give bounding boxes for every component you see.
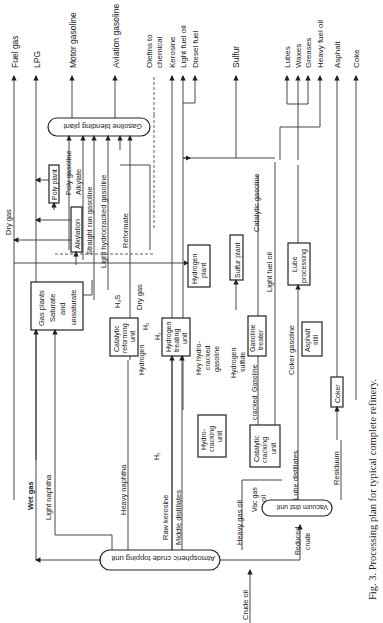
svg-text:cracked: cracked <box>251 395 258 420</box>
svg-text:Saturate: Saturate <box>48 294 57 322</box>
svg-text:Dry gas: Dry gas <box>4 209 13 235</box>
svg-text:Raw kerosine: Raw kerosine <box>161 495 170 540</box>
svg-text:Lube distillates: Lube distillates <box>291 450 300 500</box>
svg-text:reforming: reforming <box>121 323 129 353</box>
svg-text:Reformate: Reformate <box>121 213 130 248</box>
svg-text:cracked: cracked <box>204 345 211 370</box>
product-waxes: Waxes <box>294 44 303 68</box>
asphalt-still-unit: Asphalt still <box>302 322 322 356</box>
hydrocracking-unit: Hydro- cracking unit <box>198 415 226 457</box>
product-motor-gasoline: Motor gasoline <box>68 12 78 68</box>
svg-text:Coker: Coker <box>334 384 341 403</box>
svg-text:and: and <box>58 302 67 315</box>
lube-processing-unit: Lube processing <box>288 165 310 300</box>
svg-text:Hydrogen: Hydrogen <box>191 254 199 284</box>
product-labels: Fuel gas LPG Motor gasoline Aviation gas… <box>10 4 361 68</box>
svg-text:Crude oil: Crude oil <box>241 590 250 620</box>
svg-text:H₂S: H₂S <box>113 295 122 308</box>
sulfur-plant: Sulfur plant <box>230 235 243 310</box>
svg-text:Hydrogen: Hydrogen <box>165 322 173 352</box>
product-coke: Coke <box>352 49 361 68</box>
product-olefins-2: chemical <box>155 36 164 68</box>
svg-text:Sulfur plant: Sulfur plant <box>234 243 242 278</box>
svg-text:Asphalt: Asphalt <box>304 329 312 352</box>
svg-text:Gasoline blending plant: Gasoline blending plant <box>63 122 142 131</box>
svg-text:Catalytic: Catalytic <box>253 435 261 462</box>
product-lpg: LPG <box>32 51 42 68</box>
svg-text:Gasoline: Gasoline <box>249 324 256 352</box>
svg-text:Catalytic: Catalytic <box>113 325 121 352</box>
svg-text:Gasoline: Gasoline <box>251 364 258 392</box>
svg-text:Vacuum dist unit: Vacuum dist unit <box>277 504 328 511</box>
product-asphalt: Asphalt <box>333 41 342 68</box>
svg-text:gasoline: gasoline <box>213 346 221 372</box>
hydrogen-treating-unit: Hydrogen treating unit <box>162 318 190 370</box>
svg-text:Wet gas: Wet gas <box>26 481 35 510</box>
product-greases: Greases <box>304 38 313 68</box>
svg-text:Heavy gas oil: Heavy gas oil <box>235 500 244 545</box>
product-olefins: Olefins to <box>145 34 154 68</box>
svg-text:Alkylate: Alkylate <box>74 169 83 195</box>
svg-text:Alkylation: Alkylation <box>74 219 82 249</box>
atmospheric-topping-unit: Atmospheric crude topping unit <box>36 550 300 570</box>
figure-caption: Fig. 3. Processing plan for typical comp… <box>367 379 378 600</box>
svg-text:cracking: cracking <box>208 426 216 452</box>
svg-text:Residuum: Residuum <box>332 451 341 485</box>
product-kerosine: Kerosine <box>168 36 177 68</box>
poly-plant: Poly plant <box>36 165 59 210</box>
gasoline-treater-unit: Gasoline treater <box>248 316 266 356</box>
svg-text:Gas plants: Gas plants <box>37 290 46 326</box>
svg-text:unit: unit <box>129 331 136 342</box>
gasoline-blending-plant: Gasoline blending plant <box>48 118 150 150</box>
svg-text:Light fuel oil: Light fuel oil <box>265 252 274 292</box>
product-sulfur: Sulfur <box>231 46 241 68</box>
svg-text:Poly plant: Poly plant <box>51 169 59 200</box>
svg-text:Light naphtha: Light naphtha <box>44 474 53 520</box>
svg-text:treating: treating <box>173 329 181 352</box>
product-heavy-fuel-oil: Heavy fuel oil <box>316 20 325 68</box>
svg-text:plant: plant <box>200 263 208 278</box>
vacuum-dist-unit: Vacuum dist unit <box>262 500 332 516</box>
product-diesel-fuel: Diesel fuel <box>191 30 200 68</box>
svg-text:crude: crude <box>304 532 311 550</box>
svg-text:unit: unit <box>181 333 188 344</box>
svg-text:processing: processing <box>300 249 308 283</box>
coker-unit: Coker <box>331 377 343 440</box>
svg-text:Lube: Lube <box>291 256 298 272</box>
svg-text:Hydrogen: Hydrogen <box>138 345 146 375</box>
svg-text:unsaturate: unsaturate <box>69 290 78 325</box>
svg-text:still: still <box>312 334 319 345</box>
svg-text:Atmospheric crude topping unit: Atmospheric crude topping unit <box>111 554 215 563</box>
catalytic-cracking-unit: Catalytic cracking unit <box>250 425 280 467</box>
svg-text:Dry gas: Dry gas <box>135 284 144 310</box>
svg-text:Poly gasoline: Poly gasoline <box>64 150 73 195</box>
svg-text:Hydro-: Hydro- <box>200 428 208 450</box>
svg-text:Straight run gasoline: Straight run gasoline <box>85 186 94 255</box>
svg-text:unit: unit <box>216 431 223 442</box>
alkylation-unit: Alkylation <box>14 207 154 265</box>
refinery-process-diagram: Fuel gas LPG Motor gasoline Aviation gas… <box>0 0 383 623</box>
catalytic-reforming-unit: Catalytic reforming unit Hydrogen H₂ H₂ <box>110 318 161 375</box>
svg-text:cracking: cracking <box>261 437 269 463</box>
product-light-fuel-oil: Light fuel oil <box>179 25 188 68</box>
gas-plants-unit: Gas plants Saturate and unsaturate <box>31 280 92 385</box>
svg-text:H₂: H₂ <box>153 452 160 460</box>
svg-text:unit: unit <box>270 443 277 454</box>
svg-text:Heavy naphtha: Heavy naphtha <box>119 464 128 515</box>
svg-text:sulfide: sulfide <box>239 352 246 372</box>
product-fuel-gas: Fuel gas <box>10 35 20 68</box>
svg-text:Vac gas: Vac gas <box>251 487 259 512</box>
svg-text:Catalytic gasoline: Catalytic gasoline <box>252 173 261 232</box>
svg-text:H₂: H₂ <box>142 322 149 330</box>
product-aviation-gasoline: Aviation gasoline <box>111 4 121 68</box>
hydrogen-plant: Hydrogen plant <box>185 245 210 287</box>
svg-text:H₂: H₂ <box>154 332 161 340</box>
svg-text:Hvy hydro-: Hvy hydro- <box>195 340 203 375</box>
svg-text:Hydrogen: Hydrogen <box>230 348 238 378</box>
svg-text:Coker gasoline: Coker gasoline <box>287 325 296 375</box>
svg-text:treater: treater <box>257 329 264 350</box>
product-lubes: Lubes <box>283 46 292 68</box>
